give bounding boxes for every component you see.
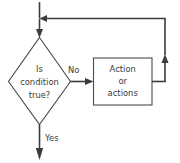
flowchart-svg: Is condition true? No Action or actions …	[0, 0, 180, 163]
yes-branch-arrowhead	[36, 148, 43, 160]
feedback-arrowhead-left	[40, 15, 48, 22]
decision-text-line-3: true?	[29, 90, 51, 100]
no-branch-label: No	[68, 65, 79, 75]
process-text-line-1: Action	[110, 64, 136, 74]
decision-text-line-1: Is	[36, 64, 43, 74]
process-text-line-2: or	[118, 76, 127, 86]
process-text-line-3: actions	[108, 88, 138, 98]
flowchart-canvas: Is condition true? No Action or actions …	[0, 0, 180, 163]
feedback-arrowhead-up	[162, 54, 169, 63]
yes-branch-label: Yes	[44, 133, 59, 143]
no-branch-arrowhead	[85, 78, 94, 85]
decision-text-line-2: condition	[20, 77, 59, 87]
